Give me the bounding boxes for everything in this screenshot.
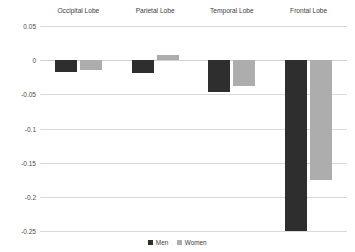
- legend-item-men: Men: [148, 239, 168, 246]
- category-label: Parietal Lobe: [136, 7, 175, 14]
- bar-men-frontal: [285, 60, 307, 231]
- legend-label-men: Men: [156, 239, 168, 246]
- grouped-bar-chart: 0.050-0.05-0.1-0.15-0.2-0.25 Occipital L…: [0, 0, 355, 252]
- bar-men-occipital: [55, 60, 77, 72]
- legend-swatch-men-icon: [148, 240, 153, 245]
- gridline: [40, 26, 347, 27]
- bar-women-temporal: [233, 60, 255, 86]
- chart-legend: Men Women: [0, 239, 355, 246]
- category-label: Occipital Lobe: [57, 7, 99, 14]
- y-axis-tick-label: 0.05: [0, 23, 36, 30]
- bar-women-frontal: [310, 60, 332, 180]
- y-axis-tick-label: -0.1: [0, 125, 36, 132]
- y-axis-tick-label: 0: [0, 57, 36, 64]
- category-label: Frontal Lobe: [290, 7, 327, 14]
- y-axis-tick-label: -0.15: [0, 159, 36, 166]
- bar-men-temporal: [208, 60, 230, 91]
- bar-men-parietal: [132, 60, 154, 73]
- y-axis-tick-label: -0.25: [0, 228, 36, 235]
- bar-women-parietal: [157, 55, 179, 60]
- legend-item-women: Women: [177, 239, 206, 246]
- category-label: Temporal Lobe: [210, 7, 254, 14]
- legend-label-women: Women: [185, 239, 207, 246]
- legend-swatch-women-icon: [177, 240, 182, 245]
- plot-area: [40, 26, 347, 231]
- gridline: [40, 231, 347, 232]
- bar-women-occipital: [80, 60, 102, 70]
- y-axis-tick-label: -0.05: [0, 91, 36, 98]
- y-axis-tick-label: -0.2: [0, 193, 36, 200]
